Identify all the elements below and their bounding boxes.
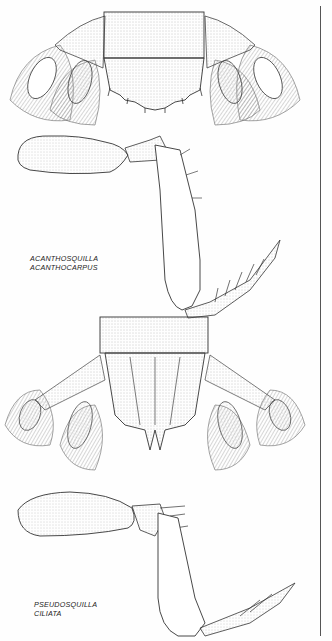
caption-genus: ACANTHOSQUILLA xyxy=(30,254,98,263)
caption-species: CILIATA xyxy=(34,609,97,618)
telson-illustration-acanthosquilla xyxy=(0,0,310,130)
species-caption-pseudosquilla: PSEUDOSQUILLA CILIATA xyxy=(34,600,97,618)
species-caption-acanthosquilla: ACANTHOSQUILLA ACANTHOCARPUS xyxy=(30,254,98,272)
caption-species: ACANTHOCARPUS xyxy=(30,263,98,272)
page-edge-divider xyxy=(320,6,321,636)
illustration-plate: ACANTHOSQUILLA ACANTHOCARPUS xyxy=(0,0,332,641)
caption-genus: PSEUDOSQUILLA xyxy=(34,600,97,609)
telson-illustration-pseudosquilla xyxy=(0,305,310,475)
